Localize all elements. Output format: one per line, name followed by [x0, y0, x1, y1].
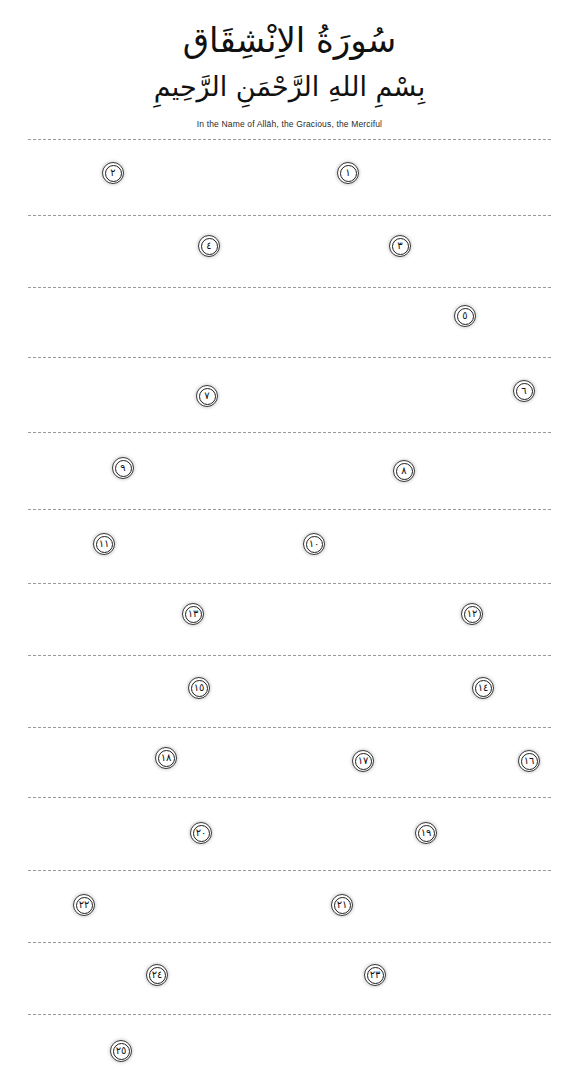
rule-line — [28, 655, 551, 656]
basmala-arabic: بِسْمِ اللهِ الرَّحْمَنِ الرَّحِيمِ — [0, 68, 579, 106]
rule-line — [28, 357, 551, 358]
rule-line — [28, 1014, 551, 1015]
verse-number-marker: ١٨ — [155, 747, 177, 769]
verse-number-label: ٩ — [113, 458, 133, 478]
verse-number-label: ٧ — [197, 386, 217, 406]
verse-number-label: ٦ — [514, 381, 534, 401]
verse-number-marker: ٢٥ — [110, 1040, 132, 1062]
verse-number-marker: ٩ — [112, 457, 134, 479]
verse-number-label: ٢١ — [332, 895, 352, 915]
verse-number-marker: ١٦ — [518, 750, 540, 772]
verse-number-label: ٨ — [394, 461, 414, 481]
verse-number-marker: ٢٢ — [73, 894, 95, 916]
verse-number-label: ١٠ — [304, 534, 324, 554]
rule-line — [28, 942, 551, 943]
verse-number-marker: ١٣ — [182, 603, 204, 625]
verse-number-marker: ١٢ — [461, 603, 483, 625]
surah-title-arabic: سُورَةُ الاِنْشِقَاق — [0, 18, 579, 62]
rule-line — [28, 797, 551, 798]
verse-number-marker: ١٠ — [303, 533, 325, 555]
rule-line — [28, 509, 551, 510]
basmala-translation: In the Name of Allāh, the Gracious, the … — [0, 119, 579, 130]
rule-line — [28, 215, 551, 216]
verse-number-label: ١١ — [94, 534, 114, 554]
verse-number-label: ٣ — [390, 236, 410, 256]
surah-header: سُورَةُ الاِنْشِقَاق بِسْمِ اللهِ الرَّح… — [0, 0, 579, 136]
verse-number-marker: ٢١ — [331, 894, 353, 916]
verse-number-marker: ١٤ — [472, 677, 494, 699]
verse-number-label: ٢٠ — [191, 823, 211, 843]
verse-number-marker: ٥ — [454, 305, 476, 327]
verse-number-label: ٤ — [199, 236, 219, 256]
verse-number-marker: ٨ — [393, 460, 415, 482]
verse-number-label: ١٤ — [473, 678, 493, 698]
rule-line — [28, 287, 551, 288]
verse-number-marker: ٧ — [196, 385, 218, 407]
verse-number-label: ٢٢ — [74, 895, 94, 915]
verse-number-marker: ٢٤ — [146, 964, 168, 986]
verse-number-marker: ١٧ — [352, 750, 374, 772]
verse-number-label: ٢ — [103, 163, 123, 183]
verse-number-marker: ٢٠ — [190, 822, 212, 844]
verse-number-label: ٢٤ — [147, 965, 167, 985]
verse-number-marker: ٤ — [198, 235, 220, 257]
rule-line — [28, 139, 551, 140]
verse-number-marker: ٣ — [389, 235, 411, 257]
rule-line — [28, 727, 551, 728]
verse-number-label: ١٥ — [189, 678, 209, 698]
verse-number-label: ١٩ — [416, 823, 436, 843]
verse-number-label: ٢٥ — [111, 1041, 131, 1061]
worksheet-page: سُورَةُ الاِنْشِقَاق بِسْمِ اللهِ الرَّح… — [0, 0, 579, 1088]
verse-number-label: ١٣ — [183, 604, 203, 624]
rule-line — [28, 432, 551, 433]
verse-number-marker: ١١ — [93, 533, 115, 555]
verse-number-label: ٥ — [455, 306, 475, 326]
verse-number-label: ٢٣ — [365, 965, 385, 985]
verse-number-marker: ١ — [337, 162, 359, 184]
verse-number-marker: ٢٣ — [364, 964, 386, 986]
verse-number-label: ١٧ — [353, 751, 373, 771]
verse-number-marker: ١٩ — [415, 822, 437, 844]
verse-number-label: ١٨ — [156, 748, 176, 768]
rule-line — [28, 870, 551, 871]
verse-number-marker: ٦ — [513, 380, 535, 402]
verse-number-marker: ٢ — [102, 162, 124, 184]
verse-number-label: ١٦ — [519, 751, 539, 771]
verse-number-label: ١٢ — [462, 604, 482, 624]
verse-number-marker: ١٥ — [188, 677, 210, 699]
verse-number-label: ١ — [338, 163, 358, 183]
rule-line — [28, 583, 551, 584]
